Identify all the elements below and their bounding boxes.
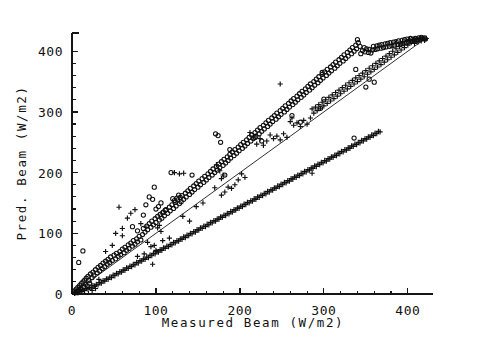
- y-tick-label: 100: [38, 226, 63, 241]
- y-tick-label: 0: [55, 287, 63, 302]
- x-tick-label: 0: [68, 303, 76, 318]
- y-tick-label: 300: [38, 105, 63, 120]
- y-tick-label: 200: [38, 166, 63, 181]
- x-axis-title: Measured Beam (W/m2): [162, 315, 345, 330]
- y-axis-title: Pred. Beam (W/m2): [14, 85, 29, 240]
- scatter-plot-figure: 0100200300400 0100200300400 Measured Bea…: [0, 0, 477, 339]
- y-tick-label: 400: [38, 44, 63, 59]
- x-tick-label: 400: [395, 303, 420, 318]
- plot-canvas: 0100200300400 0100200300400 Measured Bea…: [0, 0, 477, 339]
